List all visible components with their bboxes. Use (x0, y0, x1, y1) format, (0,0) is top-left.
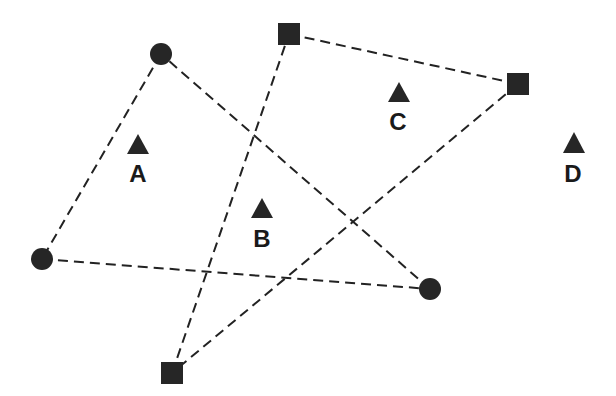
marker-label-D: D (564, 160, 581, 187)
marker-A: A (127, 134, 149, 187)
dashed-edge-c3-c1 (161, 54, 430, 289)
triangle-marker-icon (251, 198, 273, 218)
marker-C: C (388, 82, 410, 135)
triangle-marker-icon (127, 134, 149, 154)
triangle-marker-icon (563, 132, 585, 153)
triangle-marker-icon (388, 82, 410, 102)
edges-group (42, 34, 518, 373)
markers-group: A B C D (127, 82, 585, 252)
circle-node-c3 (419, 278, 441, 300)
dashed-edge-s1-s2 (289, 34, 518, 84)
marker-label-A: A (129, 160, 146, 187)
dashed-edge-s2-s3 (172, 84, 518, 373)
dashed-edge-c2-c3 (42, 259, 430, 289)
marker-D: D (563, 132, 585, 187)
marker-B: B (251, 198, 273, 252)
square-node-s3 (161, 362, 183, 384)
circle-node-c2 (31, 248, 53, 270)
marker-label-C: C (389, 108, 406, 135)
diagram-canvas: A B C D (0, 0, 616, 396)
dashed-edge-s3-s1 (172, 34, 289, 373)
marker-label-B: B (253, 225, 270, 252)
circle-node-c1 (150, 43, 172, 65)
nodes-group (31, 23, 529, 384)
square-node-s1 (278, 23, 300, 45)
dashed-edge-c1-c2 (42, 54, 161, 259)
square-node-s2 (507, 73, 529, 95)
